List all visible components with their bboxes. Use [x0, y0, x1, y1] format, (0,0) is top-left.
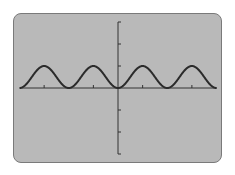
- plot-area: [0, 0, 235, 175]
